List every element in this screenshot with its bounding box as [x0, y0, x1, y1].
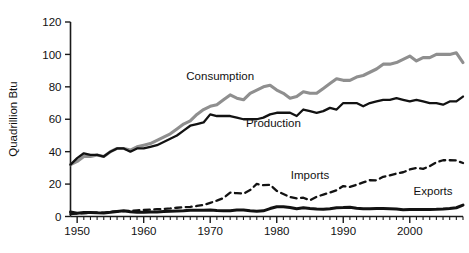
x-tick-label: 1990	[330, 225, 356, 237]
production-label: Production	[246, 117, 301, 129]
x-tick-label: 1960	[131, 225, 157, 237]
x-tick-label: 1980	[264, 225, 290, 237]
x-tick-label: 1950	[64, 225, 90, 237]
consumption-label: Consumption	[186, 70, 254, 82]
x-tick-label: 2000	[397, 225, 423, 237]
y-tick-label: 40	[49, 146, 62, 158]
x-tick-label: 1970	[197, 225, 223, 237]
imports-label: Imports	[291, 169, 330, 181]
y-axis-title: Quadrillion Btu	[7, 81, 19, 156]
y-tick-label: 80	[49, 81, 62, 93]
exports-label: Exports	[414, 185, 453, 197]
y-tick-label: 0	[55, 211, 61, 223]
chart-canvas: 020406080100120 195019601970198019902000…	[0, 0, 469, 253]
y-tick-label: 100	[42, 49, 61, 61]
y-tick-label: 60	[49, 113, 62, 125]
y-tick-label: 120	[42, 16, 61, 28]
y-tick-label: 20	[49, 178, 62, 190]
energy-overview-chart: 020406080100120 195019601970198019902000…	[0, 0, 469, 253]
